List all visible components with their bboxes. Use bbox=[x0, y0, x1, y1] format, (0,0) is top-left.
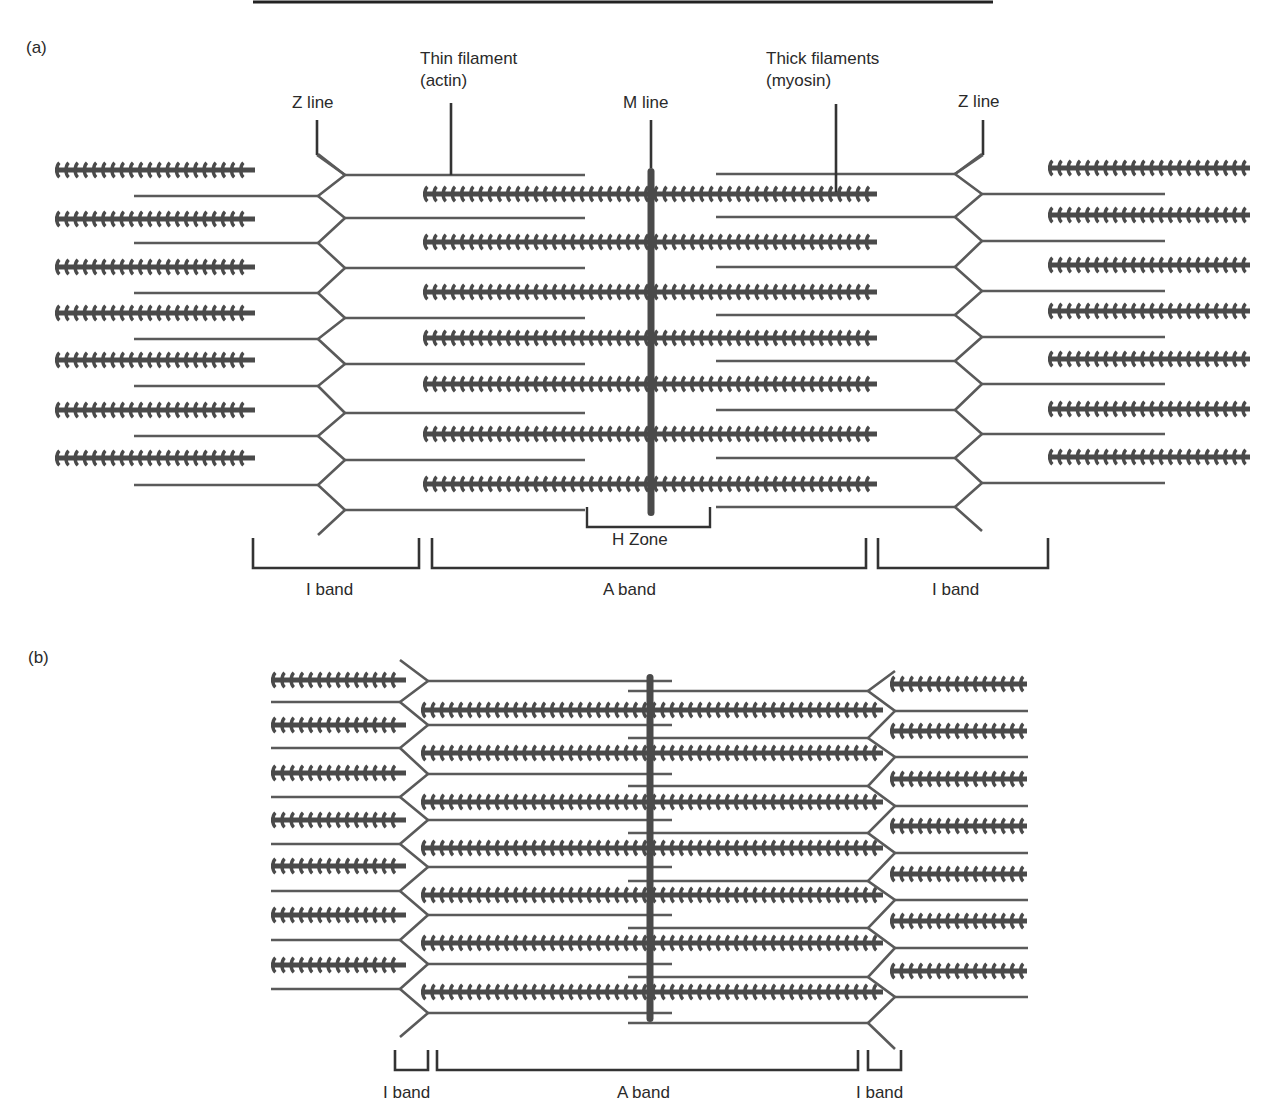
b-right-thick-filament bbox=[890, 867, 1027, 881]
b-right-thick-filament bbox=[890, 914, 1027, 928]
a-band-bracket bbox=[878, 538, 1048, 568]
a-right-thick-filament bbox=[1048, 161, 1250, 175]
panel-a-label: (a) bbox=[26, 38, 47, 58]
a-m-line bbox=[648, 168, 655, 516]
z-line-right-label: Z line bbox=[958, 92, 1000, 112]
thick-filaments-label: Thick filaments bbox=[766, 49, 879, 69]
a-band-bracket bbox=[253, 538, 419, 568]
a-left-z-line bbox=[318, 154, 345, 535]
a-right-thick-filament bbox=[1048, 402, 1250, 416]
b-right-thick-filament bbox=[890, 819, 1027, 833]
myosin-label: (myosin) bbox=[766, 71, 831, 91]
a-left-thick-filament bbox=[55, 212, 255, 226]
b-right-thick-filament bbox=[890, 677, 1027, 691]
actin-label: (actin) bbox=[420, 71, 467, 91]
sarcomere-figure: (a) Z line Thin filament (actin) M line … bbox=[0, 0, 1273, 1107]
b-left-thick-filament bbox=[271, 718, 406, 732]
a-right-z-line bbox=[955, 154, 982, 531]
a-left-thick-filament bbox=[55, 403, 255, 417]
a-right-thick-filament bbox=[1048, 352, 1250, 366]
z-line-left-leader-diag bbox=[317, 155, 345, 175]
a-left-thick-filament bbox=[55, 306, 255, 320]
a-left-thick-filament bbox=[55, 353, 255, 367]
b-right-thick-filament bbox=[890, 724, 1027, 738]
b-i-band-left-label: I band bbox=[383, 1083, 430, 1103]
b-right-thick-filament bbox=[890, 964, 1027, 978]
panel-b-label: (b) bbox=[28, 648, 49, 668]
b-i-band-right-label: I band bbox=[856, 1083, 903, 1103]
a-right-thick-filament bbox=[1048, 450, 1250, 464]
sarcomere-diagram-canvas bbox=[0, 0, 1273, 1107]
h-zone-label: H Zone bbox=[612, 530, 668, 550]
a-band-label: A band bbox=[603, 580, 656, 600]
b-m-line bbox=[647, 674, 654, 1022]
b-right-thick-filament bbox=[890, 772, 1027, 786]
z-line-right-leader-diag bbox=[955, 155, 983, 174]
b-band-bracket bbox=[868, 1050, 901, 1070]
a-left-thick-filament bbox=[55, 163, 255, 177]
a-left-thick-filament bbox=[55, 260, 255, 274]
a-right-thick-filament bbox=[1048, 208, 1250, 222]
b-left-thick-filament bbox=[271, 859, 406, 873]
z-line-left-label: Z line bbox=[292, 93, 334, 113]
i-band-left-label: I band bbox=[306, 580, 353, 600]
i-band-right-label: I band bbox=[932, 580, 979, 600]
b-left-thick-filament bbox=[271, 766, 406, 780]
a-right-thick-filament bbox=[1048, 258, 1250, 272]
b-left-thick-filament bbox=[271, 908, 406, 922]
a-left-thick-filament bbox=[55, 451, 255, 465]
b-band-bracket bbox=[395, 1050, 428, 1070]
b-a-band-label: A band bbox=[617, 1083, 670, 1103]
b-left-thick-filament bbox=[271, 673, 406, 687]
a-right-thick-filament bbox=[1048, 304, 1250, 318]
m-line-label: M line bbox=[623, 93, 668, 113]
b-left-thick-filament bbox=[271, 813, 406, 827]
b-band-bracket bbox=[437, 1050, 858, 1070]
thin-filament-label: Thin filament bbox=[420, 49, 517, 69]
b-left-thick-filament bbox=[271, 958, 406, 972]
